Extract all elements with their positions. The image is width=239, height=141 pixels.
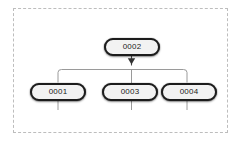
node-0002-label: 0002 (123, 43, 142, 51)
node-0002[interactable]: 0002 (104, 38, 160, 56)
node-0001[interactable]: 0001 (30, 83, 86, 101)
node-0001-label: 0001 (49, 88, 68, 96)
node-0003[interactable]: 0003 (102, 83, 158, 101)
node-0004-label: 0004 (180, 88, 199, 96)
diagram-canvas: 0002 0001 0003 0004 (0, 0, 239, 141)
edge-bus-line (58, 70, 187, 83)
node-0004[interactable]: 0004 (161, 83, 217, 101)
edge-arrowhead-icon (128, 58, 135, 64)
edge-layer (0, 0, 239, 141)
node-0003-label: 0003 (121, 88, 140, 96)
